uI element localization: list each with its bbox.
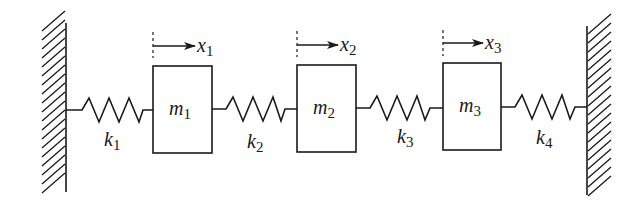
displacement-x3: x3 <box>443 30 501 56</box>
spring-k4 <box>501 95 587 119</box>
left-wall <box>42 11 66 193</box>
mass-m1: m1 <box>153 66 212 153</box>
right-wall-hatching <box>588 14 611 196</box>
spring-label-k3: k3 <box>397 125 413 150</box>
spring-k1 <box>66 98 153 122</box>
right-wall <box>587 14 611 196</box>
mass-label-m3: m3 <box>459 94 481 119</box>
displacement-label-x2: x2 <box>339 33 356 58</box>
spring-label-k4: k4 <box>536 126 553 151</box>
displacement-x1: x1 <box>153 32 213 59</box>
mass-label-m2: m2 <box>313 96 335 121</box>
mass-label-m1: m1 <box>169 97 191 122</box>
displacement-label-x3: x3 <box>484 31 501 56</box>
spring-k3 <box>356 96 443 120</box>
mass-m3: m3 <box>443 63 501 150</box>
left-wall-hatching <box>42 11 65 193</box>
spring-label-k1: k1 <box>104 128 120 153</box>
spring-mass-diagram: m1 m2 m3 k1 k2 k3 k4 x1 x2 x3 <box>0 0 644 208</box>
displacement-label-x1: x1 <box>196 34 213 59</box>
displacement-x2: x2 <box>297 31 356 58</box>
spring-label-k2: k2 <box>247 130 263 155</box>
mass-m2: m2 <box>297 65 356 152</box>
spring-k2 <box>212 97 297 121</box>
